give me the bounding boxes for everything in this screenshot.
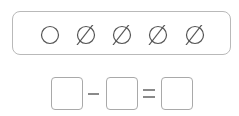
answer-box-3[interactable] (161, 77, 193, 110)
equals-sign-top (143, 89, 155, 91)
minus-sign (88, 93, 99, 95)
crossed-circle-icon (112, 25, 132, 45)
crossed-circle-icon (185, 25, 205, 45)
circle-icon (40, 25, 60, 45)
equals-sign-bottom (143, 96, 155, 98)
answer-box-1[interactable] (51, 77, 83, 110)
crossed-circle-icon (148, 25, 168, 45)
crossed-circle-icon (76, 25, 96, 45)
answer-box-2[interactable] (106, 77, 138, 110)
